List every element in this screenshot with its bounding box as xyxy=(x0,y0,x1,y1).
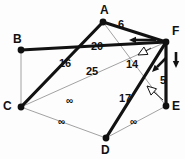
edge-weight-c-d: ∞ xyxy=(58,117,65,127)
node-label-e: E xyxy=(172,100,180,112)
edge-weight-a-c: 16 xyxy=(59,58,71,69)
edge-weight-a-f: 6 xyxy=(118,19,124,30)
node-f[interactable] xyxy=(163,39,170,46)
node-label-a: A xyxy=(100,4,109,16)
graph-diagram: 620162514517∞∞∞ABCDEF xyxy=(0,0,185,159)
pointer-to-d-f-edge-shaft xyxy=(154,92,163,100)
edge-weight-d-e: ∞ xyxy=(130,117,137,127)
pointer-to-a-e-edge-head xyxy=(138,47,148,55)
edge-weight-f-e: 5 xyxy=(160,75,166,86)
node-a[interactable] xyxy=(100,19,107,26)
arrow-down-f-e-head xyxy=(173,61,179,68)
node-label-d: D xyxy=(101,144,110,156)
node-b[interactable] xyxy=(18,47,25,54)
edge-weight-d-f: 17 xyxy=(119,93,131,104)
edge-weight-c-f: 25 xyxy=(86,66,98,77)
node-e[interactable] xyxy=(163,103,170,110)
node-c[interactable] xyxy=(18,104,25,111)
edge-weight-b-f: 20 xyxy=(91,41,103,52)
arrow-to-a-f-edge-head xyxy=(129,37,136,43)
pointer-to-d-f-edge-head xyxy=(147,86,157,95)
node-label-b: B xyxy=(13,33,22,45)
edge-weight-a-e: 14 xyxy=(126,59,138,70)
node-label-c: C xyxy=(3,100,12,112)
node-label-f: F xyxy=(172,25,179,37)
graph-canvas xyxy=(0,0,185,159)
edge-weight-b-c: ∞ xyxy=(66,96,73,106)
node-d[interactable] xyxy=(103,135,110,142)
